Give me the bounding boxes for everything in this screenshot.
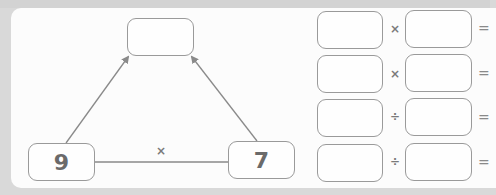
equation-4-equals: = xyxy=(478,154,490,170)
equation-2-right-box[interactable] xyxy=(405,54,472,92)
equation-2-equals: = xyxy=(478,65,490,81)
base-operator: × xyxy=(156,144,166,158)
equation-3-equals: = xyxy=(478,109,490,125)
equation-2-operator: × xyxy=(390,67,400,81)
equation-3-left-box[interactable] xyxy=(317,99,383,137)
equation-1-right-box[interactable] xyxy=(405,10,472,48)
equation-3-right-box[interactable] xyxy=(405,98,472,136)
equation-2-left-box[interactable] xyxy=(317,55,383,93)
equation-1-equals: = xyxy=(478,20,490,36)
equation-4-right-box[interactable] xyxy=(405,143,472,181)
left-arrow xyxy=(66,57,128,143)
equation-3-operator: ÷ xyxy=(390,110,400,124)
equation-1-left-box[interactable] xyxy=(317,11,383,49)
equation-4-left-box[interactable] xyxy=(317,144,383,182)
right-arrow xyxy=(192,57,257,141)
top-answer-box[interactable] xyxy=(127,18,194,56)
left-number-box: 9 xyxy=(28,143,95,181)
equation-4-operator: ÷ xyxy=(390,155,400,169)
equation-1-operator: × xyxy=(390,22,400,36)
right-number-box: 7 xyxy=(228,141,295,179)
